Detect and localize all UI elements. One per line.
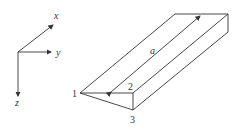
length-label-a: a bbox=[150, 45, 155, 56]
x-axis-label: x bbox=[53, 10, 59, 21]
x-axis-arrow bbox=[18, 25, 53, 52]
edge-2-back bbox=[133, 14, 228, 93]
vertex-label-2: 2 bbox=[128, 81, 133, 92]
z-axis-label: z bbox=[14, 97, 19, 108]
wedge-diagram: x y z 1 2 3 a bbox=[0, 0, 240, 130]
vertex-label-1: 1 bbox=[72, 88, 77, 99]
coordinate-axes: x y z bbox=[14, 10, 61, 108]
length-dimension-arrow bbox=[111, 16, 200, 92]
edge-3-back bbox=[133, 32, 228, 110]
y-axis-label: y bbox=[55, 47, 61, 58]
wedge-prism bbox=[80, 14, 228, 110]
edge-1-3 bbox=[80, 93, 133, 110]
vertex-label-3: 3 bbox=[130, 114, 135, 125]
